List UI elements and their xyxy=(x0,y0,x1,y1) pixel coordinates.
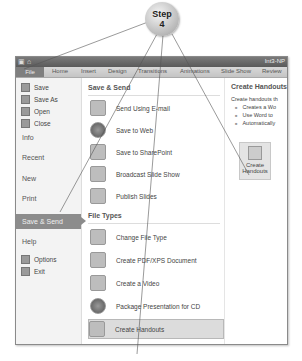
sidebar-item-save[interactable]: Save xyxy=(21,83,49,92)
tab-animations[interactable]: Animations xyxy=(180,68,210,74)
sidebar-item-label: Open xyxy=(34,108,50,115)
window-title: Int3-NP xyxy=(265,58,285,64)
options-icon xyxy=(21,255,30,264)
handouts-icon xyxy=(248,146,262,160)
tab-home[interactable]: Home xyxy=(52,68,68,74)
sidebar-item-print[interactable]: Print xyxy=(22,195,36,202)
item-label: Broadcast Slide Show xyxy=(116,171,180,178)
close-file-icon xyxy=(21,119,30,128)
exit-icon xyxy=(21,267,30,276)
save-send-panel: Save & Send Send Using E-mail Save to We… xyxy=(82,78,224,344)
handouts-icon xyxy=(89,321,105,337)
sidebar-item-open[interactable]: Open xyxy=(21,107,50,116)
broadcast-slide-show-item[interactable]: Broadcast Slide Show xyxy=(90,165,220,183)
save-icon xyxy=(21,83,30,92)
sidebar-item-save-as[interactable]: Save As xyxy=(21,95,58,104)
cd-icon xyxy=(90,298,106,314)
tab-design[interactable]: Design xyxy=(108,68,127,74)
item-label: Create Handouts xyxy=(115,326,164,333)
open-folder-icon xyxy=(21,107,30,116)
file-types-heading: File Types xyxy=(88,212,122,219)
powerpoint-window: ▣ ⌂ Int3-NP File Home Insert Design Tran… xyxy=(15,56,288,345)
email-icon xyxy=(90,100,106,116)
pdf-icon xyxy=(90,252,106,268)
sidebar-item-label: Close xyxy=(34,120,51,127)
quick-access-toolbar[interactable]: ▣ ⌂ xyxy=(18,58,31,66)
tab-insert[interactable]: Insert xyxy=(81,68,96,74)
bullet-item: Creates a Wo xyxy=(235,104,276,110)
change-file-type-icon xyxy=(90,229,106,245)
divider xyxy=(88,95,220,96)
sidebar-item-recent[interactable]: Recent xyxy=(22,154,44,161)
sidebar-item-info[interactable]: Info xyxy=(22,134,34,141)
panel-title: Create Handouts xyxy=(231,83,287,90)
tab-transitions[interactable]: Transitions xyxy=(138,68,167,74)
send-using-email-item[interactable]: Send Using E-mail xyxy=(90,99,220,117)
bullet-item: Use Word to xyxy=(235,112,273,118)
create-handouts-item[interactable]: Create Handouts xyxy=(88,319,224,339)
create-handouts-panel: Create Handouts Create handouts th Creat… xyxy=(224,78,288,344)
change-file-type-item[interactable]: Change File Type xyxy=(90,228,220,246)
item-label: Create PDF/XPS Document xyxy=(116,257,197,264)
publish-slides-icon xyxy=(90,188,106,204)
sidebar-item-help[interactable]: Help xyxy=(22,238,36,245)
create-video-item[interactable]: Create a Video xyxy=(90,274,220,292)
step-callout: Step 4 xyxy=(145,2,179,36)
title-bar: ▣ ⌂ Int3-NP xyxy=(16,57,287,67)
create-handouts-button[interactable]: Create Handouts xyxy=(239,142,271,180)
sidebar-item-options[interactable]: Options xyxy=(21,255,56,264)
backstage-sidebar: Save Save As Open Close Info Recent New … xyxy=(16,78,82,344)
bullet-item: Automatically xyxy=(235,120,275,126)
sidebar-item-label: Exit xyxy=(34,268,45,275)
sidebar-item-label: Save xyxy=(34,84,49,91)
item-label: Create a Video xyxy=(116,280,159,287)
item-label: Save to SharePoint xyxy=(116,149,172,156)
item-label: Send Using E-mail xyxy=(116,105,170,112)
sidebar-item-exit[interactable]: Exit xyxy=(21,267,45,276)
ribbon-tabs: File Home Insert Design Transitions Anim… xyxy=(16,67,287,78)
create-pdf-xps-item[interactable]: Create PDF/XPS Document xyxy=(90,251,220,269)
tab-slide-show[interactable]: Slide Show xyxy=(221,68,251,74)
save-send-heading: Save & Send xyxy=(88,84,130,91)
sidebar-item-label: Options xyxy=(34,256,56,263)
sidebar-item-save-send[interactable]: Save & Send xyxy=(16,214,81,229)
web-globe-icon xyxy=(90,122,106,138)
step-label: Step xyxy=(145,9,179,19)
broadcast-icon xyxy=(90,166,106,182)
tab-review[interactable]: Review xyxy=(262,68,282,74)
sidebar-item-label: Save As xyxy=(34,96,58,103)
sharepoint-icon xyxy=(90,144,106,160)
item-label: Package Presentation for CD xyxy=(116,303,200,310)
panel-description: Create handouts th xyxy=(231,96,278,102)
save-as-icon xyxy=(21,95,30,104)
button-label-line2: Handouts xyxy=(240,168,270,174)
sidebar-item-new[interactable]: New xyxy=(22,175,36,182)
item-label: Publish Slides xyxy=(116,193,157,200)
tab-file[interactable]: File xyxy=(16,67,44,77)
publish-slides-item[interactable]: Publish Slides xyxy=(90,187,220,205)
video-icon xyxy=(90,275,106,291)
divider xyxy=(88,223,220,224)
step-number: 4 xyxy=(145,19,179,29)
item-label: Save to Web xyxy=(116,127,153,134)
item-label: Change File Type xyxy=(116,234,167,241)
save-to-sharepoint-item[interactable]: Save to SharePoint xyxy=(90,143,220,161)
package-for-cd-item[interactable]: Package Presentation for CD xyxy=(90,297,220,315)
sidebar-item-close[interactable]: Close xyxy=(21,119,51,128)
save-to-web-item[interactable]: Save to Web xyxy=(90,121,220,139)
